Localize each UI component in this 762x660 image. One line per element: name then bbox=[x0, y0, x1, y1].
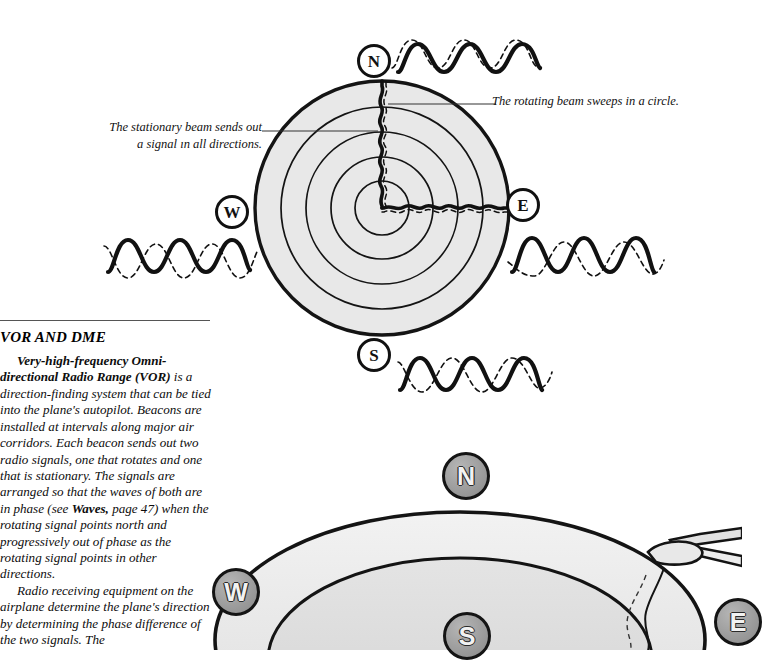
compass-badge-north-bottom: N bbox=[442, 452, 490, 500]
compass-badge-east-bottom-label: E bbox=[730, 610, 747, 635]
compass-badge-south-bottom: S bbox=[443, 612, 491, 660]
compass-badge-north-bottom-label: N bbox=[457, 464, 475, 489]
article-heading: VOR AND DME bbox=[0, 329, 212, 346]
article-term-vor: Very-high-frequency Omni-directional Rad… bbox=[0, 353, 171, 384]
article-crossref-waves: Waves, bbox=[72, 501, 109, 516]
article-paragraph-2: Radio receiving equipment on the airplan… bbox=[0, 583, 212, 649]
article-divider-rule bbox=[0, 320, 210, 321]
article-paragraph-1: Very-high-frequency Omni-directional Rad… bbox=[0, 353, 212, 583]
airplane-icon bbox=[648, 528, 742, 566]
article-column: VOR AND DME Very-high-frequency Omni-dir… bbox=[0, 320, 215, 650]
compass-badge-south-bottom-label: S bbox=[459, 624, 476, 649]
compass-badge-west-bottom: W bbox=[212, 568, 260, 616]
airplane-fuselage bbox=[648, 541, 702, 564]
compass-badge-east-bottom: E bbox=[714, 598, 762, 646]
compass-badge-west-bottom-label: W bbox=[224, 580, 248, 605]
article-paragraph-1-rest: is a direction-finding system that can b… bbox=[0, 369, 211, 515]
